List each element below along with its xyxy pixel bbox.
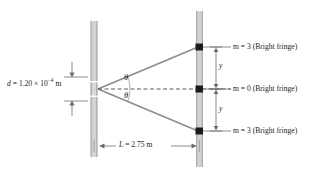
fringe-label-top: m = 3 (Bright fringe) [233, 43, 297, 51]
theta-top-label: θ [124, 74, 128, 82]
theta-bottom-label: θ [124, 92, 128, 100]
screen-distance-label: L = 2.75 m [119, 141, 152, 149]
y-top-label: y [219, 62, 222, 70]
d-unit: m [53, 79, 61, 88]
ray-lower [98, 89, 198, 131]
fringe-marker-mid [196, 86, 204, 93]
fringe-label-mid: m = 0 (Bright fringe) [233, 85, 297, 93]
fringe-marker-top [196, 44, 204, 51]
ray-upper [98, 47, 198, 89]
slit-barrier-upper [91, 21, 98, 81]
L-value: = 2.75 m [123, 140, 152, 149]
slit-separation-label: d = 1.20 × 10−4 m [7, 80, 61, 88]
d-dimension [64, 62, 88, 116]
y-bottom-label: y [219, 105, 222, 113]
figure-root: d = 1.20 × 10−4 m L = 2.75 m θ θ y y m =… [0, 0, 314, 178]
fringe-label-bot: m = 3 (Bright fringe) [233, 127, 297, 135]
slit-aperture [91, 83, 98, 96]
d-equals: = 1.20 × 10 [11, 79, 48, 88]
fringe-marker-bot [196, 128, 204, 135]
